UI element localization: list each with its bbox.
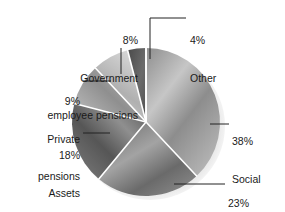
label-percent: 8% xyxy=(28,34,138,47)
label-earnings: 23% Earnings xyxy=(228,172,284,212)
label-percent: 9% xyxy=(2,95,80,108)
label-percent: 4% xyxy=(190,34,260,47)
label-percent: 23% xyxy=(228,197,284,210)
pie-chart-figure: 8% Government employee pensions 4% Other… xyxy=(0,0,285,212)
label-name-line1: Assets xyxy=(2,187,80,200)
label-name-line1: Other xyxy=(190,72,260,85)
label-assets: 18% Assets xyxy=(2,124,80,212)
label-percent: 38% xyxy=(232,135,284,148)
label-percent: 18% xyxy=(2,149,80,162)
label-other: 4% Other xyxy=(190,9,260,109)
